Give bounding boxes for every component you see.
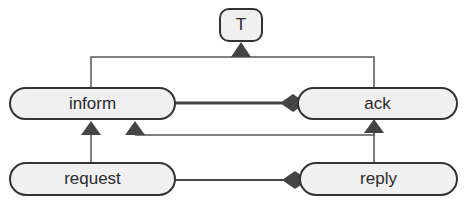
node-ack-label: ack <box>298 95 457 112</box>
node-request-label: request <box>10 170 175 187</box>
edge-inform-ack-to-T <box>91 44 374 88</box>
edge-ack-to-inform <box>135 133 374 135</box>
node-inform-label: inform <box>10 95 175 112</box>
generalization-arrow-icon <box>125 121 145 135</box>
node-reply-label: reply <box>300 170 457 187</box>
generalization-arrow-icon <box>364 119 384 133</box>
generalization-arrow-icon <box>81 121 101 135</box>
generalization-arrow-icon <box>231 42 251 57</box>
node-T-label: T <box>220 16 262 33</box>
